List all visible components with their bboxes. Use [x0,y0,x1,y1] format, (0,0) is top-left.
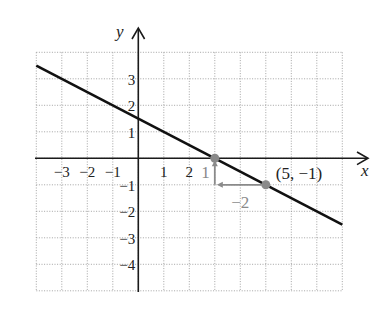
x-tick-label: −3 [54,164,70,180]
y-tick-label: −1 [119,178,135,194]
y-axis-label: y [114,22,124,41]
y-tick-label: −2 [119,204,135,220]
x-tick-label: 1 [160,164,168,180]
data-point [261,180,270,189]
tick-labels: −3−2−112321−1−2−3−4 [54,72,193,273]
y-tick-label: −3 [119,231,135,247]
y-tick-label: 3 [128,72,136,88]
y-tick-label: 1 [128,125,136,141]
y-tick-label: 2 [128,98,136,114]
rise-label: 1 [201,163,210,182]
run-label: −2 [231,193,249,212]
run-arrowhead-icon [217,182,223,188]
line-graph: −3−2−112321−1−2−3−4 1−2 (5, −1) x y [0,0,384,316]
y-tick-label: −4 [119,257,135,273]
data-point [210,154,219,163]
x-tick-label: −2 [79,164,95,180]
x-tick-label: 2 [186,164,194,180]
point-label: (5, −1) [276,164,322,183]
axes [35,28,368,292]
x-axis-label: x [360,161,369,180]
